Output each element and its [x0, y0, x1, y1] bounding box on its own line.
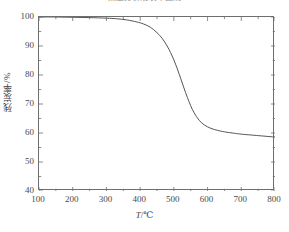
x-tick-label: 100 — [23, 195, 53, 204]
chart-title: 热重分析残炭率曲线 — [0, 0, 289, 2]
figure-container: 热重分析残炭率曲线 100908070605040 残炭率/% 10020030… — [0, 0, 289, 232]
x-tick-label: 800 — [259, 195, 289, 204]
plot-svg — [39, 17, 275, 191]
x-axis-title: T/℃ — [0, 210, 289, 220]
y-tick-label: 100 — [2, 12, 34, 21]
plot-area — [38, 16, 274, 190]
y-tick-label: 90 — [2, 41, 34, 50]
y-tick-label: 60 — [2, 128, 34, 137]
x-axis-title-unit: /℃ — [141, 210, 154, 220]
y-tick-label: 40 — [2, 186, 34, 195]
axis-ticks — [39, 17, 275, 191]
y-axis-title: 残炭率/% — [2, 72, 16, 112]
x-tick-label: 700 — [225, 195, 255, 204]
x-axis-tick-labels: 100200300400500600700800 — [0, 195, 289, 207]
x-tick-label: 300 — [90, 195, 120, 204]
x-tick-label: 200 — [57, 195, 87, 204]
x-tick-label: 600 — [192, 195, 222, 204]
x-tick-label: 500 — [158, 195, 188, 204]
x-tick-label: 400 — [124, 195, 154, 204]
data-series-line — [39, 17, 275, 137]
y-tick-label: 50 — [2, 157, 34, 166]
